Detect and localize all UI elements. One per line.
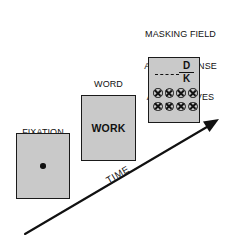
circled-x-icon — [165, 102, 175, 112]
circled-x-icon — [188, 102, 198, 112]
panel-fixation-point — [16, 133, 70, 199]
fixation-dot — [40, 163, 46, 169]
circled-x-icon — [153, 102, 163, 112]
response-alternatives: D K — [179, 60, 194, 84]
circled-x-icon — [176, 88, 186, 98]
stimulus-word: WORK — [82, 122, 135, 134]
circled-x-icon — [165, 88, 175, 98]
panel-masking-field: D K — [148, 57, 200, 123]
circled-x-icon — [176, 102, 186, 112]
caption-mask-line-1: MASKING FIELD — [128, 29, 233, 40]
mask-row — [153, 102, 198, 112]
mask-dashed-line — [155, 74, 179, 75]
mask-row — [153, 88, 198, 98]
response-alternative-top: D — [179, 60, 194, 71]
figure-canvas: FIXATION POINT WORD OR LETTER WORK MASKI… — [0, 0, 233, 248]
circled-x-icon — [188, 88, 198, 98]
response-alternative-bottom: K — [179, 73, 194, 84]
circled-x-icon — [153, 88, 163, 98]
